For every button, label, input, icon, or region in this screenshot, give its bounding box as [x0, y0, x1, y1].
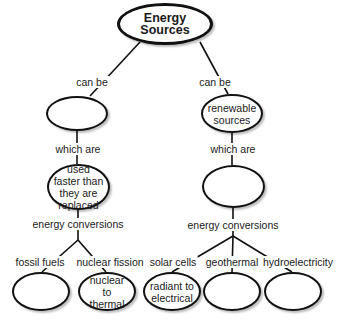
link-geothermal: geothermal: [205, 256, 260, 268]
node-renewable-blank: [202, 165, 265, 208]
node-radiant-to-electrical: radiant to electrical: [143, 272, 201, 311]
node-used-faster: used faster than they are replaced: [47, 164, 110, 210]
link-fossil-fuels: fossil fuels: [14, 256, 65, 268]
link-nuclear-fission: nuclear fission: [75, 256, 144, 268]
link-energy-conversions-right: energy conversions: [186, 219, 279, 231]
link-energy-conversions-left: energy conversions: [31, 218, 124, 230]
node-energy-sources: Energy Sources: [117, 3, 213, 45]
node-geothermal-blank: [203, 272, 261, 311]
link-can-be-right: can be: [198, 76, 232, 88]
link-can-be-left: can be: [75, 76, 109, 88]
link-solar-cells: solar cells: [149, 256, 198, 268]
link-which-are-left: which are: [55, 143, 102, 155]
link-which-are-right: which are: [210, 143, 257, 155]
node-renewable-sources: renewable sources: [201, 94, 263, 133]
node-nonrenewable-blank: [46, 96, 108, 131]
link-hydroelectricity: hydroelectricity: [262, 256, 334, 268]
node-fossil-fuels-blank: [12, 272, 70, 311]
node-hydroelectricity-blank: [264, 272, 322, 311]
node-nuclear-to-thermal: nuclear to thermal: [78, 272, 136, 311]
